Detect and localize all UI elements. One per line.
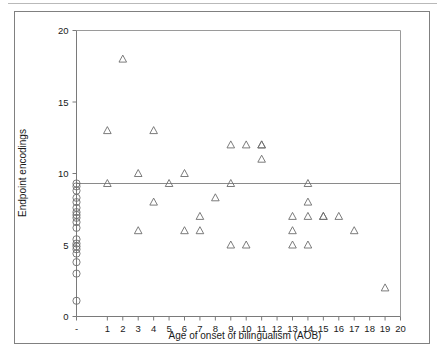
x-tick-label-19: 19	[380, 323, 391, 334]
data-point-triangle	[227, 141, 235, 148]
y-tick-label-3: 15	[58, 97, 69, 108]
tick-label-layer: 05101520-1234567891011121314151617181920	[58, 25, 406, 334]
x-tick-label-20: 20	[395, 323, 406, 334]
data-point-triangle	[212, 194, 220, 201]
data-point-triangle	[335, 212, 343, 219]
x-tick-label-3: 3	[136, 323, 141, 334]
data-marker-layer	[73, 55, 389, 304]
y-tick-label-2: 10	[58, 168, 69, 179]
x-tick-label-0: -	[75, 323, 78, 334]
x-tick-label-1: 1	[105, 323, 110, 334]
data-point-triangle	[304, 212, 312, 219]
y-tick-label-0: 0	[63, 311, 68, 322]
data-point-triangle	[150, 198, 158, 205]
data-point-triangle	[150, 127, 158, 134]
data-point-triangle	[134, 170, 142, 177]
data-point-triangle	[320, 212, 328, 219]
data-point-triangle	[196, 212, 204, 219]
data-point-triangle	[227, 241, 235, 248]
x-axis-title: Age of onset of bilingualism (AOB)	[169, 330, 322, 341]
series-1	[104, 55, 389, 291]
x-tick-label-2: 2	[120, 323, 125, 334]
data-point-triangle	[289, 227, 297, 234]
x-tick-label-18: 18	[364, 323, 375, 334]
data-point-triangle	[242, 241, 250, 248]
data-point-triangle	[242, 141, 250, 148]
x-tick-label-16: 16	[333, 323, 344, 334]
figure-page: 05101520-1234567891011121314151617181920…	[0, 0, 445, 358]
y-tick-label-4: 20	[58, 25, 69, 36]
data-point-triangle	[119, 55, 127, 62]
data-point-triangle	[258, 141, 266, 148]
data-point-triangle	[289, 212, 297, 219]
data-point-triangle	[196, 227, 204, 234]
x-tick-label-17: 17	[349, 323, 360, 334]
scatter-plot: 05101520-1234567891011121314151617181920…	[0, 0, 445, 358]
data-point-triangle	[350, 227, 358, 234]
data-point-triangle	[320, 212, 328, 219]
data-point-triangle	[304, 241, 312, 248]
data-point-triangle	[381, 284, 389, 291]
data-point-triangle	[181, 227, 189, 234]
plot-frame-lines	[77, 31, 401, 317]
data-point-triangle	[289, 241, 297, 248]
y-tick-label-1: 5	[63, 240, 68, 251]
axis-layer	[73, 31, 401, 321]
data-point-triangle	[258, 141, 266, 148]
axis-title-layer: Age of onset of bilingualism (AOB) Endpo…	[17, 129, 321, 341]
y-axis-title: Endpoint encodings	[17, 129, 28, 217]
data-point-triangle	[181, 170, 189, 177]
x-tick-label-4: 4	[151, 323, 156, 334]
data-point-triangle	[304, 198, 312, 205]
data-point-triangle	[258, 155, 266, 162]
data-point-triangle	[134, 227, 142, 234]
data-point-triangle	[104, 127, 112, 134]
